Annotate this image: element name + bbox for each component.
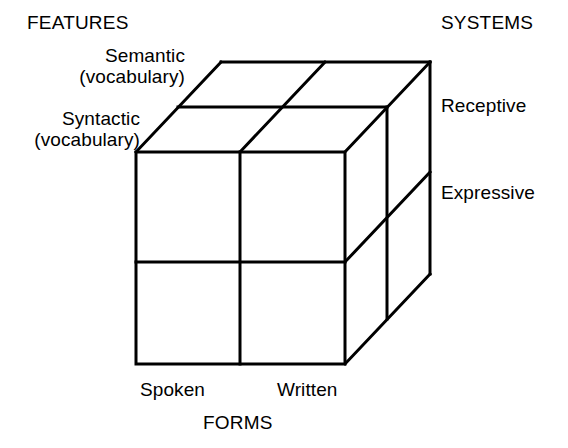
diagram-canvas: FEATURES Semantic(vocabulary) Syntactic(… [0, 0, 568, 448]
features-tick-semantic: Semantic(vocabulary) [0, 45, 185, 88]
systems-tick-receptive: Receptive [441, 95, 526, 116]
forms-axis-title: FORMS [203, 412, 273, 433]
features-tick-syntactic: Syntactic(vocabulary) [0, 108, 140, 151]
forms-tick-written: Written [277, 379, 338, 400]
forms-tick-spoken: Spoken [140, 379, 205, 400]
features-tick-semantic-line2: (vocabulary) [79, 66, 185, 87]
systems-tick-expressive: Expressive [441, 182, 535, 203]
cube-front-face [136, 152, 345, 364]
systems-axis-title: SYSTEMS [441, 12, 533, 33]
features-tick-semantic-line1: Semantic [105, 45, 185, 66]
features-tick-syntactic-line1: Syntactic [62, 108, 140, 129]
features-tick-syntactic-line2: (vocabulary) [34, 129, 140, 150]
features-axis-title: FEATURES [27, 12, 129, 33]
